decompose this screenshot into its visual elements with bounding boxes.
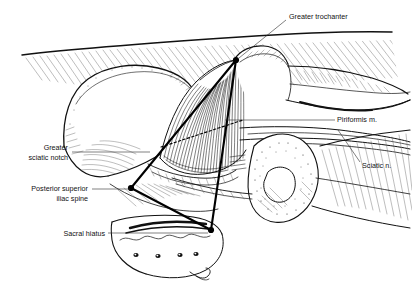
figure-canvas: Greater trochanter Piriformis m. Sciatic… bbox=[0, 0, 412, 286]
label-sciatic-nerve: Sciatic n. bbox=[362, 161, 391, 170]
anatomical-figure: Greater trochanter Piriformis m. Sciatic… bbox=[0, 0, 412, 286]
label-psis-line2: iliac spine bbox=[56, 194, 88, 203]
label-greater-sciatic-notch-line2: sciatic notch bbox=[28, 153, 68, 162]
greater-trochanter-vertex bbox=[233, 57, 239, 63]
label-piriformis-muscle: Piriformis m. bbox=[337, 115, 377, 124]
label-greater-trochanter: Greater trochanter bbox=[289, 12, 348, 21]
sacral-hiatus-vertex bbox=[208, 227, 214, 233]
label-sacral-hiatus: Sacral hiatus bbox=[63, 229, 105, 238]
psis-vertex bbox=[128, 185, 134, 191]
label-greater-sciatic-notch-line1: Greater bbox=[44, 143, 69, 152]
label-psis-line1: Posterior superior bbox=[31, 184, 88, 193]
